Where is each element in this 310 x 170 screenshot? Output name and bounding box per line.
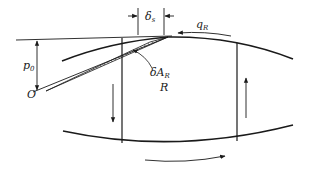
origin-o-label: O xyxy=(27,89,36,100)
q-r-arrow xyxy=(178,32,231,36)
diagram-svg xyxy=(0,0,310,170)
delta-a-r-label: δAR xyxy=(150,67,170,80)
bottom-arc xyxy=(63,125,293,142)
delta-s-label: δs xyxy=(145,11,155,24)
q-r-label: qR xyxy=(196,19,208,32)
p0-label: p0 xyxy=(23,60,35,73)
bottom-rotation-arrow xyxy=(145,156,225,161)
diagram-canvas: δs qR δAR R p0 O xyxy=(0,0,310,170)
wedge-lower-line xyxy=(33,37,168,92)
r-label: R xyxy=(160,82,168,93)
top-arc xyxy=(62,37,293,61)
